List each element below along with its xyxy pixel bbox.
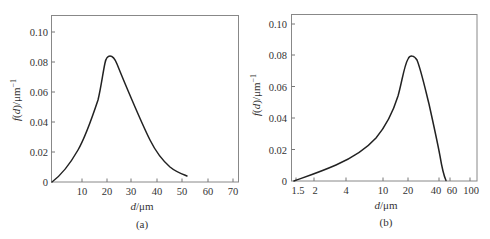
plot-frame-b — [292, 15, 478, 182]
figure: 0 0.02 0.04 0.06 0.08 0.10 10 20 30 40 5… — [0, 0, 490, 239]
x-axis-label-a: d/μm — [130, 200, 153, 212]
x-tick-label: 20 — [403, 185, 414, 196]
x-axis-b: 1.5 2 4 10 20 40 60 100 — [291, 178, 478, 197]
x-tick-label: 60 — [447, 185, 458, 196]
y-tick-label: 0 — [43, 177, 48, 188]
y-tick-label: 0.04 — [269, 113, 288, 124]
y-tick-label: 0.02 — [269, 145, 287, 156]
distribution-curve-b — [294, 56, 446, 181]
y-tick-label: 0.08 — [30, 57, 48, 68]
panel-b: 0 0.02 0.04 0.06 0.08 0.10 1.5 2 4 10 20… — [249, 15, 479, 230]
x-tick-label: 40 — [152, 186, 163, 197]
panel-a: 0 0.02 0.04 0.06 0.08 0.10 10 20 30 40 5… — [9, 16, 239, 232]
y-tick-label: 0.10 — [269, 19, 287, 30]
x-tick-label: 20 — [102, 186, 113, 197]
x-tick-label: 30 — [126, 186, 137, 197]
y-tick-label: 0 — [282, 176, 287, 187]
y-axis-label-b: f(d)/μm−1 — [249, 74, 263, 116]
y-axis-label-a: f(d)/μm−1 — [9, 79, 23, 121]
x-tick-label: 4 — [343, 185, 349, 196]
y-tick-label: 0.06 — [30, 87, 48, 98]
y-tick-label: 0.06 — [269, 82, 287, 93]
x-tick-label: 100 — [463, 185, 479, 196]
panel-label-a: (a) — [136, 218, 149, 231]
x-tick-label: 10 — [77, 186, 88, 197]
x-axis-a: 10 20 30 40 50 60 70 — [77, 179, 239, 198]
y-tick-label: 0.08 — [269, 50, 287, 61]
distribution-curve-a — [52, 56, 187, 182]
x-tick-label: 2 — [312, 185, 317, 196]
x-tick-label: 10 — [378, 185, 389, 196]
panel-label-b: (b) — [380, 216, 393, 229]
plot-frame-a — [52, 16, 239, 183]
x-tick-label: 60 — [203, 186, 214, 197]
x-tick-label: 50 — [177, 186, 188, 197]
y-tick-label: 0.02 — [30, 147, 48, 158]
y-tick-label: 0.04 — [30, 117, 49, 128]
x-axis-label-b: d/μm — [374, 199, 397, 211]
x-tick-label: 40 — [431, 185, 442, 196]
y-tick-label: 0.10 — [30, 27, 48, 38]
x-tick-label: 1.5 — [291, 185, 304, 196]
x-tick-label: 70 — [228, 186, 239, 197]
